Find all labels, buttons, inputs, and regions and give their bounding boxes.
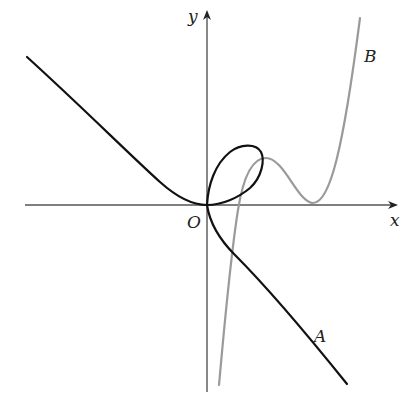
curve-b-label: B bbox=[363, 46, 377, 66]
diagram: y x O B A bbox=[0, 0, 405, 402]
y-axis-label: y bbox=[187, 6, 198, 26]
curve-a-loop bbox=[207, 146, 263, 205]
x-axis-label: x bbox=[390, 210, 400, 230]
origin-label: O bbox=[187, 212, 201, 232]
curve-a-label: A bbox=[312, 326, 326, 346]
curve-b bbox=[219, 18, 360, 385]
curve-a-left-branch bbox=[27, 57, 207, 205]
